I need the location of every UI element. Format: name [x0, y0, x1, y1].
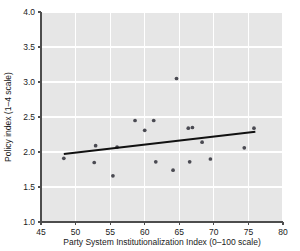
scatter-point	[191, 126, 195, 130]
scatter-point	[154, 160, 158, 164]
scatter-point	[171, 168, 175, 172]
scatter-point	[133, 119, 137, 123]
x-tick-label: 70	[209, 227, 219, 237]
y-tick-label: 3.0	[23, 77, 35, 87]
scatter-point	[252, 126, 256, 130]
chart-figure: 1.01.52.02.53.03.54.0 4550556065707580 P…	[0, 0, 300, 251]
x-tick-label: 45	[36, 227, 46, 237]
x-tick-label: 75	[244, 227, 254, 237]
scatter-point	[152, 119, 156, 123]
scatter-point	[94, 144, 98, 148]
scatter-point	[188, 160, 192, 164]
scatter-point	[92, 161, 96, 165]
y-tick-label: 2.5	[23, 112, 35, 122]
y-tick-label: 3.5	[23, 42, 35, 52]
x-tick-label: 55	[105, 227, 115, 237]
scatter-point	[143, 128, 147, 132]
scatter-point	[186, 126, 190, 130]
y-tick-label: 1.0	[23, 217, 35, 227]
x-tick-label: 80	[278, 227, 288, 237]
x-tick-label: 65	[175, 227, 185, 237]
scatter-point	[209, 157, 213, 161]
scatter-plot: 1.01.52.02.53.03.54.0 4550556065707580 P…	[0, 0, 300, 251]
x-axis-title: Party System Institutionalization Index …	[63, 237, 261, 247]
y-tick-label: 2.0	[23, 147, 35, 157]
y-tick-label: 1.5	[23, 182, 35, 192]
x-tick-label: 60	[140, 227, 150, 237]
scatter-point	[175, 77, 179, 81]
x-tick-label: 50	[71, 227, 81, 237]
y-tick-label: 4.0	[23, 7, 35, 17]
y-axis-title: Policy index (1–4 scale)	[3, 72, 13, 162]
scatter-point	[200, 140, 204, 144]
scatter-point	[242, 146, 246, 150]
scatter-point	[62, 156, 66, 160]
scatter-point	[111, 174, 115, 178]
